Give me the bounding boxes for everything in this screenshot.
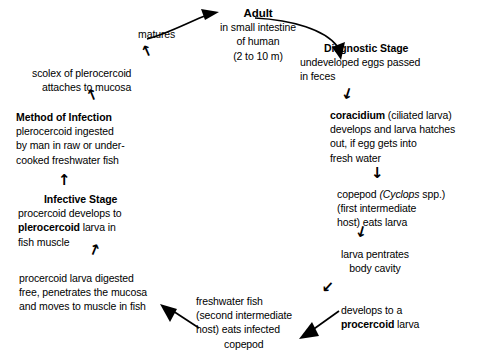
node-infective-stage: Infective Stage procercoid develops to p… [18, 192, 121, 249]
node-procercoid-line-1: develops to a [341, 303, 419, 317]
node-coracidium: coracidium (ciliated larva) develops and… [330, 108, 455, 165]
node-matures: matures [138, 27, 175, 41]
arrow-larva-penetrates-to-procercoid-icon: ↓ [318, 278, 337, 298]
node-procercoid-term-suffix: larva [394, 318, 419, 330]
node-infective-stage-term: plerocercoid [18, 221, 80, 233]
node-matures-label: matures [138, 27, 175, 41]
life-cycle-diagram: Adult in small intestine of human (2 to … [0, 0, 501, 357]
node-scolex-line-1: scolex of plerocercoid [32, 66, 131, 80]
node-freshwater-fish-line-1: freshwater fish [196, 294, 292, 308]
node-scolex-line-2: attaches to mucosa [32, 80, 131, 94]
node-copepod-label: copepod [337, 188, 379, 200]
node-scolex: scolex of plerocercoid attaches to mucos… [32, 66, 131, 94]
node-copepod-line-3: host) eats larva [337, 215, 445, 229]
arrow-coracidium-to-copepod-icon: ↓ [371, 166, 384, 181]
node-infective-stage-term-suffix: larva in [80, 221, 116, 233]
arrow-procercoid-to-freshwater-fish [297, 309, 343, 341]
node-copepod-spp: spp.) [419, 188, 445, 200]
arrow-copepod-to-larva-penetrates-icon: ↓ [353, 224, 369, 242]
node-procercoid-digested-line-2: free, penetrates the mucosa [19, 285, 147, 299]
node-method-of-infection-line-1: plerocercoid ingested [16, 124, 125, 138]
node-coracidium-line-3: fresh water [330, 151, 455, 165]
node-coracidium-term: coracidium [330, 109, 385, 121]
node-freshwater-fish-line-2: (second intermediate [196, 308, 292, 322]
node-diagnostic-stage-line-2: in feces [300, 69, 420, 83]
node-procercoid-term: procercoid [341, 318, 394, 330]
node-larva-penetrates-line-2: body cavity [327, 261, 423, 275]
node-infective-stage-line-3: fish muscle [18, 235, 121, 249]
node-diagnostic-stage: Diagnostic Stage undeveloped eggs passed… [300, 41, 420, 84]
node-copepod-genus: Cyclops [383, 188, 420, 200]
node-procercoid: develops to a procercoid larva [341, 303, 419, 331]
node-coracidium-term-note: (ciliated larva) [385, 109, 452, 121]
arrow-freshwater-fish-to-digested [157, 302, 203, 334]
node-method-of-infection-line-2: by man in raw or under- [16, 138, 125, 152]
node-coracidium-line-1: develops and larva hatches [330, 122, 455, 136]
node-freshwater-fish-line-4: copepod [196, 337, 292, 351]
node-copepod: copepod (Cyclops spp.) (first intermedia… [337, 187, 445, 230]
node-larva-penetrates: larva pentrates body cavity [327, 247, 423, 275]
node-coracidium-line-2: out, if egg gets into [330, 136, 455, 150]
node-method-of-infection: Method of Infection plerocercoid ingeste… [16, 110, 125, 167]
node-method-of-infection-header: Method of Infection [16, 110, 125, 124]
node-larva-penetrates-line-1: larva pentrates [327, 247, 423, 261]
node-procercoid-digested-line-1: procercoid larva digested [19, 271, 147, 285]
node-infective-stage-line-1: procercoid develops to [18, 206, 121, 220]
arrow-scolex-to-matures-icon: ↑ [138, 42, 156, 61]
node-infective-stage-header: Infective Stage [18, 192, 121, 206]
node-diagnostic-stage-line-1: undeveloped eggs passed [300, 55, 420, 69]
arrow-infective-to-method-icon: ↑ [58, 173, 71, 188]
node-method-of-infection-line-3: cooked freshwater fish [16, 153, 125, 167]
arrow-diagnostic-to-coracidium-icon: ↓ [339, 85, 356, 103]
node-diagnostic-stage-header: Diagnostic Stage [300, 41, 420, 55]
node-procercoid-digested: procercoid larva digested free, penetrat… [19, 271, 147, 314]
node-freshwater-fish: freshwater fish (second intermediate hos… [196, 294, 292, 351]
node-copepod-line-2: (first intermediate [337, 201, 445, 215]
node-procercoid-digested-line-3: and moves to muscle in fish [19, 299, 147, 313]
node-freshwater-fish-line-3: host) eats infected [196, 322, 292, 336]
